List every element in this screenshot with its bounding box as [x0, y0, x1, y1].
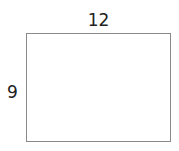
width-label: 12: [0, 12, 179, 29]
rectangle-shape: [26, 33, 171, 142]
height-label: 9: [7, 84, 18, 101]
